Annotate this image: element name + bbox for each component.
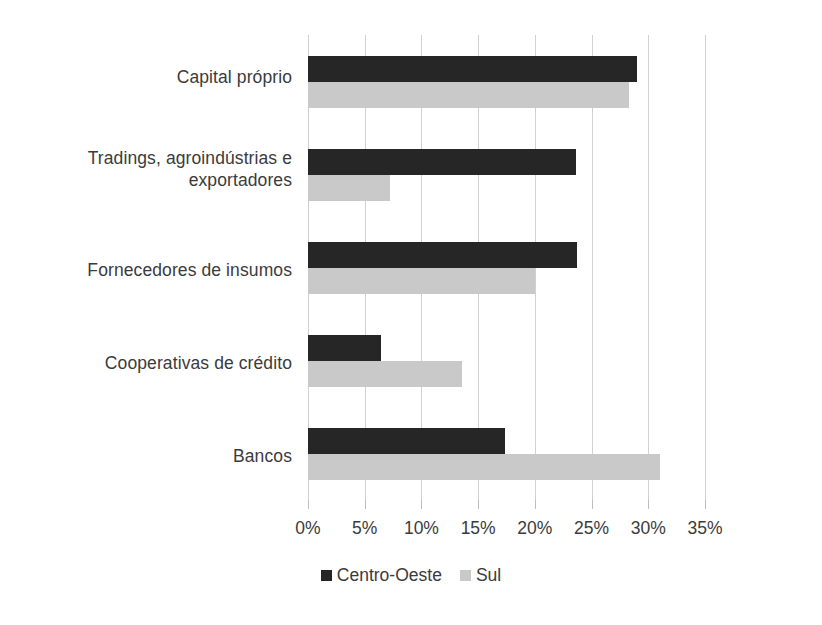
bar (308, 242, 577, 268)
x-axis-tick (648, 500, 649, 509)
legend-swatch-icon (321, 570, 332, 581)
x-axis-tick (478, 500, 479, 509)
legend-item-centro-oeste: Centro-Oeste (321, 565, 442, 586)
x-axis-tick (308, 500, 309, 509)
x-axis-tick-label: 0% (295, 518, 320, 539)
x-axis-tick (365, 500, 366, 509)
legend-label: Sul (476, 565, 501, 586)
x-axis-tick-label: 20% (517, 518, 552, 539)
legend-swatch-icon (460, 570, 471, 581)
x-axis-tick (535, 500, 536, 509)
legend-item-sul: Sul (460, 565, 501, 586)
bar (308, 454, 660, 480)
x-axis-tick-label: 25% (574, 518, 609, 539)
plot-area (308, 35, 705, 500)
gridline (648, 35, 649, 500)
x-axis-tick-label: 30% (631, 518, 666, 539)
bar (308, 56, 637, 82)
x-axis-tick-label: 10% (404, 518, 439, 539)
category-label: Bancos (0, 445, 292, 467)
x-axis-tick-label: 15% (461, 518, 496, 539)
bar (308, 428, 505, 454)
legend-label: Centro-Oeste (337, 565, 442, 586)
bar (308, 268, 535, 294)
x-axis-tick-label: 5% (352, 518, 377, 539)
bar (308, 335, 381, 361)
bar (308, 149, 576, 175)
x-axis-tick-label: 35% (687, 518, 722, 539)
x-axis-tick (705, 500, 706, 509)
bar-chart: Capital próprio Tradings, agroindústrias… (0, 0, 822, 625)
bar (308, 82, 629, 108)
category-axis-labels: Capital próprio Tradings, agroindústrias… (0, 35, 300, 500)
x-axis-ticks (308, 500, 708, 512)
category-label: Capital próprio (0, 66, 292, 88)
x-axis-tick (421, 500, 422, 509)
category-label: Cooperativas de crédito (0, 352, 292, 374)
x-axis-tick-labels: 0%5%10%15%20%25%30%35% (0, 518, 822, 546)
category-label: Fornecedores de insumos (0, 259, 292, 281)
gridline (705, 35, 706, 500)
bar (308, 361, 462, 387)
bar (308, 175, 390, 201)
category-label: Tradings, agroindústrias e exportadores (0, 147, 292, 192)
chart-legend: Centro-Oeste Sul (0, 562, 822, 588)
x-axis-tick (592, 500, 593, 509)
